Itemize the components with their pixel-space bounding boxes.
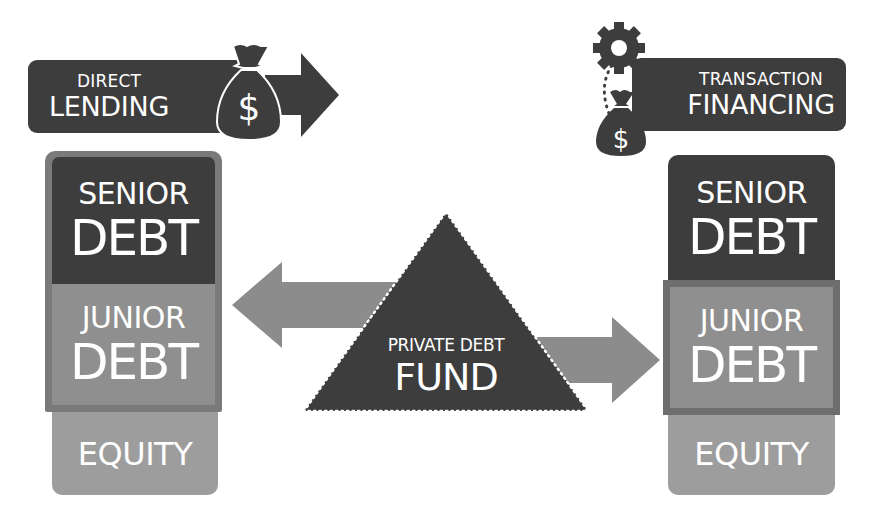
- right-senior-line2: DEBT: [688, 212, 815, 262]
- transaction-financing-label: TRANSACTION FINANCING: [632, 58, 846, 131]
- right-junior-debt-block: JUNIOR DEBT: [670, 287, 833, 408]
- direct-lending-line2: LENDING: [49, 93, 169, 120]
- right-junior-line2: DEBT: [688, 340, 815, 390]
- right-junior-line1: JUNIOR: [700, 306, 804, 336]
- gear-and-money-bag-icon: $: [592, 20, 652, 160]
- left-senior-line1: SENIOR: [78, 179, 189, 209]
- left-equity-label: EQUITY: [52, 414, 218, 494]
- right-senior-debt-block: SENIOR DEBT: [668, 155, 835, 285]
- money-bag-icon: $: [213, 40, 285, 144]
- left-senior-debt-block: SENIOR DEBT: [52, 157, 215, 284]
- transaction-financing-line2: FINANCING: [687, 91, 835, 118]
- left-junior-line1: JUNIOR: [82, 303, 186, 333]
- left-equity-text: EQUITY: [78, 438, 192, 470]
- right-equity-label: EQUITY: [668, 414, 835, 494]
- left-junior-line2: DEBT: [70, 337, 197, 387]
- direct-lending-line1: DIRECT: [77, 73, 141, 90]
- private-debt-fund-label: PRIVATE DEBT FUND: [330, 326, 562, 406]
- fund-line1: PRIVATE DEBT: [388, 337, 505, 354]
- fund-line2: FUND: [394, 358, 497, 396]
- svg-text:$: $: [613, 124, 630, 154]
- transaction-financing-line1: TRANSACTION: [699, 71, 823, 88]
- right-equity-text: EQUITY: [694, 438, 808, 470]
- svg-text:$: $: [238, 87, 261, 128]
- left-senior-line2: DEBT: [70, 213, 197, 263]
- left-junior-debt-block: JUNIOR DEBT: [52, 284, 215, 405]
- right-senior-line1: SENIOR: [696, 178, 807, 208]
